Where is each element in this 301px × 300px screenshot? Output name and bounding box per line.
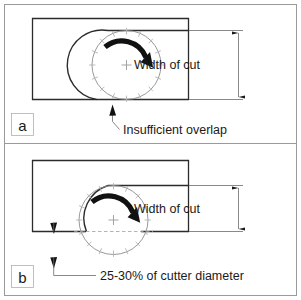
panel-a-width-of-cut-label: Width of cut (134, 58, 201, 72)
panel-a-callout-label: Insufficient overlap (123, 123, 227, 137)
panel-b-width-of-cut-label: Width of cut (134, 202, 201, 216)
panel-b-callout-label: 25-30% of cutter diameter (100, 269, 244, 283)
panel-a-label: a (18, 117, 27, 134)
figure-svg: Width of cut Insufficient overlap a (0, 0, 301, 300)
panel-b-label: b (18, 269, 26, 286)
figure-root: Width of cut Insufficient overlap a (0, 0, 301, 300)
figure-outer-border (5, 5, 297, 296)
panel-b-label-box: b (12, 266, 34, 288)
panel-a-label-box: a (12, 114, 34, 136)
